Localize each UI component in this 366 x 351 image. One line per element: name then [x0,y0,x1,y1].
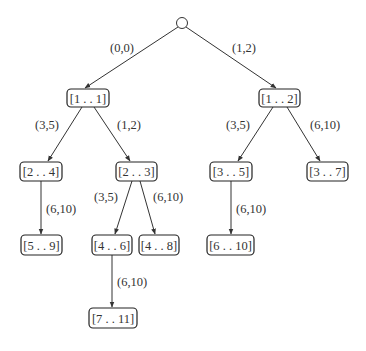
edges-layer: (0,0)(1,2)(3,5)(1,2)(3,5)(6,10)(6,10)(3,… [35,27,340,307]
tree-node-n3: [2 . . 4] [20,162,62,181]
edge-label: (1,2) [232,41,256,55]
node-label: [2 . . 4] [23,165,59,179]
node-label: [4 . . 6] [94,239,130,253]
node-label: [2 . . 3] [118,165,154,179]
tree-diagram: (0,0)(1,2)(3,5)(1,2)(3,5)(6,10)(6,10)(3,… [0,0,366,351]
edge-label: (6,10) [46,202,76,216]
edge-arrow [115,181,132,234]
edge-arrow [238,107,273,161]
edge-label: (3,5) [94,190,118,204]
edge-label: (3,5) [35,118,59,132]
tree-node-n1: [1 . . 1] [67,89,109,107]
node-label: [1 . . 2] [261,92,297,106]
tree-edge: (1,2) [94,107,141,161]
edge-arrow [85,27,178,88]
node-label: [3 . . 5] [213,165,249,179]
edge-label: (0,0) [110,41,134,55]
edge-arrow [186,27,276,88]
tree-node-n7: [5 . . 9] [21,235,62,255]
node-label: [6 . . 10] [209,239,252,253]
node-label: [4 . . 8] [141,239,177,253]
tree-edge: (6,10) [231,181,266,234]
nodes-layer: [1 . . 1][1 . . 2][2 . . 4][2 . . 3][3 .… [20,18,348,329]
tree-edge: (3,5) [226,107,273,161]
tree-edge: (0,0) [85,27,178,88]
tree-edge: (1,2) [186,27,276,88]
tree-edge: (6,10) [112,255,147,307]
edge-arrow [48,107,82,161]
tree-edge: (3,5) [94,181,132,234]
node-label: [3 . . 7] [309,165,345,179]
tree-node-n5: [3 . . 5] [210,162,252,181]
tree-edge: (6,10) [41,181,76,234]
edge-label: (6,10) [310,118,340,132]
tree-edge: (6,10) [287,107,340,161]
tree-node-n11: [7 . . 11] [89,308,137,328]
tree-node-n8: [4 . . 6] [92,235,132,255]
tree-edge: (3,5) [35,107,82,161]
tree-edge: (6,10) [140,181,183,234]
root-node-circle [177,18,188,29]
edge-arrow [140,181,155,234]
node-label: [5 . . 9] [23,239,59,253]
node-label: [7 . . 11] [92,312,134,326]
edge-label: (3,5) [226,118,250,132]
tree-node-n6: [3 . . 7] [307,162,348,181]
tree-node-n10: [6 . . 10] [207,235,254,255]
edge-label: (6,10) [236,202,266,216]
tree-node-n2: [1 . . 2] [259,89,300,107]
edge-label: (6,10) [117,275,147,289]
tree-node-n4: [2 . . 3] [116,162,157,181]
edge-arrow [94,107,130,161]
tree-node-n9: [4 . . 8] [139,235,179,255]
edge-label: (6,10) [153,190,183,204]
edge-arrow [287,107,320,161]
node-label: [1 . . 1] [70,92,106,106]
edge-label: (1,2) [117,118,141,132]
